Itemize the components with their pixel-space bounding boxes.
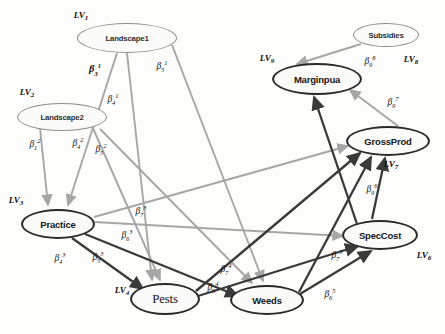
lv-tag-marginpua: LV9 bbox=[260, 53, 275, 66]
beta-label-e9: β63 bbox=[121, 229, 132, 243]
beta-label-e11: β64 bbox=[207, 281, 218, 295]
lv-tag-practice: LV3 bbox=[9, 195, 24, 208]
beta-label-e16: β97 bbox=[387, 96, 398, 110]
lv-tag-pests: LV4 bbox=[115, 285, 130, 298]
beta-label-e17: β98 bbox=[364, 55, 375, 69]
lv-tag-grossprod: LV7 bbox=[384, 159, 399, 172]
beta-label-e3: β51 bbox=[156, 60, 167, 74]
beta-label-e8: β53 bbox=[92, 251, 103, 265]
path-diagram: Landscape1 Landscape2 Practice Pests Wee… bbox=[0, 0, 445, 334]
beta-label-e7: β43 bbox=[54, 252, 65, 266]
beta-label-e13: β65 bbox=[324, 288, 335, 302]
beta-label-e15: β96 bbox=[366, 183, 377, 197]
beta-label-e4: β12 bbox=[29, 138, 40, 152]
label-layer: LV1 LV2 LV3 LV4 LV6 LV7 LV8 LV9 β31 β41 bbox=[0, 0, 445, 334]
beta-label-e12: β74 bbox=[220, 263, 231, 277]
lv-tag-landscape2: LV2 bbox=[20, 87, 35, 100]
beta-label-e6: β52 bbox=[95, 143, 106, 157]
beta-label-e14: β75 bbox=[331, 249, 342, 263]
beta-label-e5: β42 bbox=[72, 137, 83, 151]
lv-tag-speccost: LV6 bbox=[417, 250, 432, 263]
beta-label-e1: β31 bbox=[89, 63, 101, 77]
lv-tag-landscape1: LV1 bbox=[74, 10, 89, 23]
beta-label-e10: β73 bbox=[135, 205, 146, 219]
beta-label-e2: β41 bbox=[107, 93, 118, 107]
lv-tag-subsidies: LV8 bbox=[404, 54, 419, 67]
